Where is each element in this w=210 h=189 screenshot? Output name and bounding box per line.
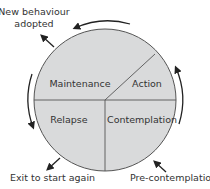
segment-relapse: Relapse xyxy=(50,114,87,125)
top-arc-arrow-icon xyxy=(75,21,130,28)
exit-arrow-icon xyxy=(48,158,60,169)
right-arc-arrow-icon xyxy=(176,68,183,124)
segment-action: Action xyxy=(132,78,162,89)
new-behaviour-label-line2: adopted xyxy=(14,18,53,29)
segment-maintenance: Maintenance xyxy=(49,78,110,89)
new-behaviour-label-line1: New behaviour xyxy=(0,6,70,17)
precontemplation-label: Pre-contemplation xyxy=(130,172,210,183)
precontemplation-arrow-icon xyxy=(155,162,166,172)
segment-contemplation: Contemplation xyxy=(107,114,177,125)
stages-of-change-diagram: Maintenance Action Relapse Contemplation… xyxy=(0,0,210,189)
exit-label: Exit to start again xyxy=(10,172,95,183)
left-arc-arrow-icon xyxy=(28,74,33,127)
new-behaviour-arrow-icon xyxy=(42,36,54,47)
